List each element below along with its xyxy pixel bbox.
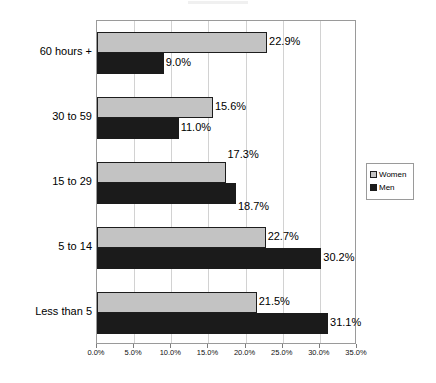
x-axis: 0.0%5.0%10.0%15.0%20.0%25.0%30.0%35.0% — [96, 348, 356, 364]
bar-women — [97, 162, 226, 183]
bar-men — [97, 313, 328, 334]
x-tick-label: 0.0% — [87, 348, 104, 357]
data-label: 11.0% — [181, 122, 211, 133]
legend-swatch-men-icon — [370, 184, 377, 191]
bar-women — [97, 32, 267, 53]
bar-men — [97, 183, 236, 204]
data-label: 21.5% — [259, 296, 290, 307]
data-label: 17.3% — [228, 149, 259, 160]
legend-label-men: Men — [379, 183, 395, 192]
data-label: 15.6% — [215, 101, 246, 112]
plot-area — [96, 20, 356, 344]
legend-label-women: Women — [379, 170, 406, 179]
category-label: 60 hours + — [2, 46, 92, 57]
x-tick-label: 5.0% — [125, 348, 142, 357]
data-label: 30.2% — [323, 252, 354, 263]
scan-artifact — [188, 1, 248, 4]
bar-men — [97, 118, 179, 139]
category-axis: 60 hours +30 to 5915 to 295 to 14Less th… — [0, 20, 92, 344]
bar-women — [97, 227, 266, 248]
x-tick-label: 25.0% — [271, 348, 292, 357]
category-label: 15 to 29 — [2, 176, 92, 187]
data-label: 9.0% — [166, 57, 191, 68]
bar-women — [97, 97, 213, 118]
legend-swatch-women-icon — [370, 171, 377, 178]
category-label: Less than 5 — [2, 306, 92, 317]
data-label: 22.7% — [268, 231, 299, 242]
x-tick-label: 35.0% — [345, 348, 366, 357]
legend-item-men[interactable]: Men — [370, 181, 410, 194]
data-label: 22.9% — [269, 36, 300, 47]
category-label: 5 to 14 — [2, 241, 92, 252]
bar-men — [97, 53, 164, 74]
legend-item-women[interactable]: Women — [370, 168, 410, 181]
bar-men — [97, 248, 321, 269]
bar-women — [97, 292, 257, 313]
x-tick-label: 15.0% — [197, 348, 218, 357]
x-tick-label: 30.0% — [308, 348, 329, 357]
bar-chart: 60 hours +30 to 5915 to 295 to 14Less th… — [0, 0, 436, 383]
x-tick-label: 10.0% — [160, 348, 181, 357]
data-label: 31.1% — [330, 317, 361, 328]
gridline — [320, 21, 321, 343]
category-label: 30 to 59 — [2, 111, 92, 122]
x-tick-label: 20.0% — [234, 348, 255, 357]
chart-legend: Women Men — [366, 163, 414, 200]
data-label: 18.7% — [238, 201, 269, 212]
